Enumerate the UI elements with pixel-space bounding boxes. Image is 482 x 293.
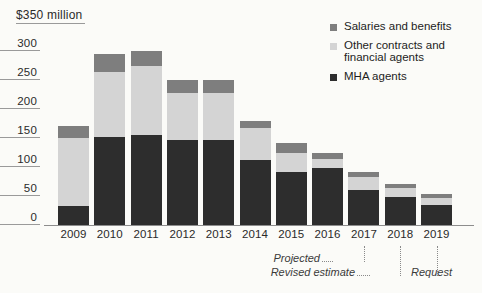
y-axis-tick-250: 250 [0, 66, 40, 80]
y-axis-tick-100: 100 [0, 153, 40, 167]
y-axis-tick-150: 150 [0, 124, 40, 138]
y-axis-tick-0: 0 [0, 211, 40, 225]
bar-2013[interactable] [203, 16, 234, 225]
bar-segment-other [312, 159, 343, 168]
bar-segment-other [94, 72, 125, 137]
bar-segment-other [240, 128, 271, 160]
legend-item-other: Other contracts and financial agents [330, 39, 480, 64]
chart-legend: Salaries and benefits Other contracts an… [330, 20, 480, 88]
bar-segment-other [203, 93, 234, 140]
bar-segment-mha [240, 160, 271, 225]
legend-label-other: Other contracts and financial agents [344, 39, 480, 64]
y-axis-tick-300: 300 [0, 37, 40, 51]
bar-segment-salaries [131, 51, 162, 66]
bar-segment-salaries [94, 54, 125, 72]
annotation-leader-connector [357, 275, 370, 276]
y-axis-tick-label: 50 [0, 182, 40, 196]
annotation-leader-line [437, 246, 438, 276]
bar-segment-mha [131, 135, 162, 225]
bar-2015[interactable] [276, 16, 307, 225]
y-axis-tick-200: 200 [0, 95, 40, 109]
bar-segment-mha [421, 205, 452, 225]
bar-segment-mha [276, 172, 307, 225]
stacked-bar-chart: 050100150200250300$350 million 200920102… [0, 0, 482, 293]
bar-segment-other [421, 198, 452, 205]
legend-swatch-salaries [330, 24, 337, 31]
y-axis-tick-label: 0 [0, 211, 40, 225]
y-axis-tick-label: 250 [0, 66, 40, 80]
annotation-revised-estimate: Revised estimate [0, 266, 355, 278]
bar-segment-other [58, 138, 89, 206]
y-axis-tick-label: 200 [0, 95, 40, 109]
bar-segment-other [276, 153, 307, 173]
bar-2009[interactable] [58, 16, 89, 225]
bar-2012[interactable] [167, 16, 198, 225]
bar-segment-mha [167, 140, 198, 225]
bar-segment-mha [94, 137, 125, 225]
legend-swatch-other [330, 43, 337, 50]
bar-segment-salaries [203, 80, 234, 93]
bar-segment-salaries [58, 126, 89, 138]
bar-2011[interactable] [131, 16, 162, 225]
annotation-leader-line [400, 246, 401, 276]
bar-segment-salaries [167, 80, 198, 93]
legend-item-mha: MHA agents [330, 70, 480, 83]
y-axis-tick-label: 300 [0, 37, 40, 51]
y-axis-tick-50: 50 [0, 182, 40, 196]
annotation-projected: Projected [0, 252, 320, 264]
bar-segment-other [167, 93, 198, 140]
legend-label-mha: MHA agents [344, 70, 407, 83]
bar-segment-salaries [276, 143, 307, 152]
bar-segment-other [348, 177, 379, 190]
x-axis-tick-2019: 2019 [415, 228, 459, 240]
bar-segment-mha [385, 197, 416, 225]
legend-swatch-mha [330, 74, 337, 81]
bar-segment-mha [203, 140, 234, 225]
bar-segment-mha [312, 168, 343, 225]
axis-baseline [44, 225, 474, 226]
bar-segment-mha [348, 190, 379, 225]
bar-2014[interactable] [240, 16, 271, 225]
bar-segment-salaries [240, 121, 271, 128]
legend-label-salaries: Salaries and benefits [344, 20, 451, 33]
bar-segment-other [131, 66, 162, 136]
bar-2010[interactable] [94, 16, 125, 225]
annotation-request: Request [411, 266, 452, 278]
y-axis-tick-label: 150 [0, 124, 40, 138]
bar-segment-mha [58, 206, 89, 225]
y-axis-tick-label: 100 [0, 153, 40, 167]
annotation-leader-line [364, 246, 365, 262]
annotation-leader-connector [322, 261, 333, 262]
bar-segment-other [385, 188, 416, 197]
legend-item-salaries: Salaries and benefits [330, 20, 480, 33]
